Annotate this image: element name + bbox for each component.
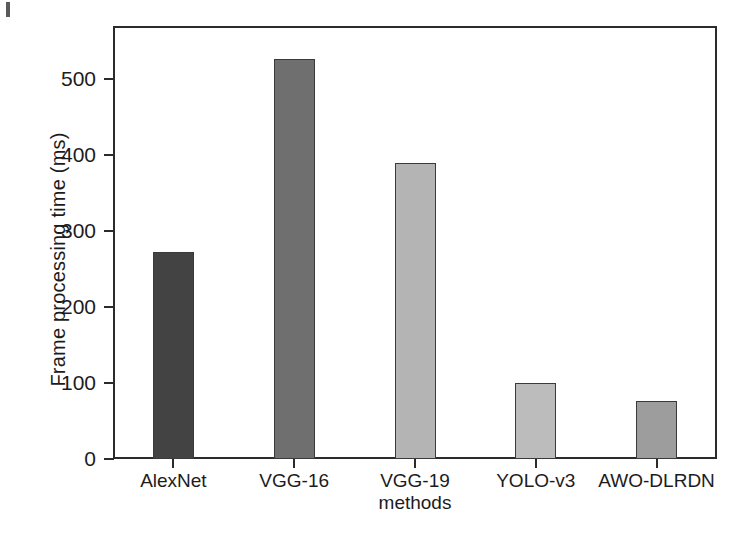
bar-chart-figure: Frame processing time (ms) 0100200300400… [0,0,730,539]
y-axis-tick-label: 0 [16,448,96,469]
y-axis-tick [104,458,114,460]
x-axis-tick [414,459,416,468]
x-axis-tick [535,459,537,468]
y-axis-tick-label: 400 [16,144,96,165]
x-axis-tick-label: AWO-DLRDN [582,470,730,492]
bar-vgg-19[interactable] [395,163,436,459]
bar-vgg-16[interactable] [274,59,315,459]
x-axis-tick [293,459,295,468]
y-axis-tick [104,382,114,384]
y-axis-tick [104,154,114,156]
bar-yolo-v3[interactable] [515,383,556,459]
x-axis-title: methods [340,492,490,514]
y-axis-tick [104,306,114,308]
x-axis-tick [172,459,174,468]
y-axis-tick [104,78,114,80]
bar-awo-dlrdn[interactable] [636,401,677,459]
y-axis-tick-label: 100 [16,372,96,393]
y-axis-tick-label: 300 [16,220,96,241]
y-axis-tick [104,230,114,232]
y-axis-tick-label: 500 [16,68,96,89]
x-axis-tick [656,459,658,468]
y-axis-tick-label: 200 [16,296,96,317]
bar-alexnet[interactable] [153,252,194,459]
